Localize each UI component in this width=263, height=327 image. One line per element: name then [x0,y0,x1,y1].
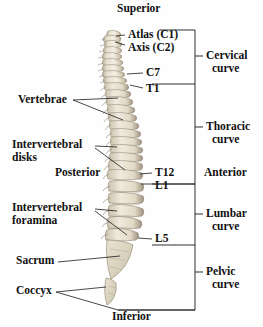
coccyx-bone [105,278,117,305]
sacrum-bone [107,240,134,279]
thoracic-vertebrae-group [100,82,143,180]
leader-t1 [130,85,143,88]
label-t1: T1 [146,83,159,94]
label-atlas-c1: Atlas (C1) [128,29,178,40]
label-c7: C7 [146,67,160,78]
label-axis-c2: Axis (C2) [128,42,174,53]
label-inferior: Inferior [112,311,151,322]
leader-l5 [138,238,152,239]
label-coccyx: Coccyx [16,285,52,296]
label-l5: L5 [155,233,168,244]
leader-coccyx-1 [56,287,106,292]
label-superior: Superior [117,3,160,14]
cervical-vertebrae-group [98,30,127,84]
label-posterior: Posterior [55,167,100,178]
label-anterior: Anterior [204,167,247,178]
label-t12: T12 [155,167,174,178]
label-sacrum: Sacrum [16,255,54,266]
vertebral-column-illustration [98,30,144,305]
leader-c7 [127,73,143,74]
label-vertebrae: Vertebrae [18,94,67,105]
label-l1: L1 [155,180,168,191]
